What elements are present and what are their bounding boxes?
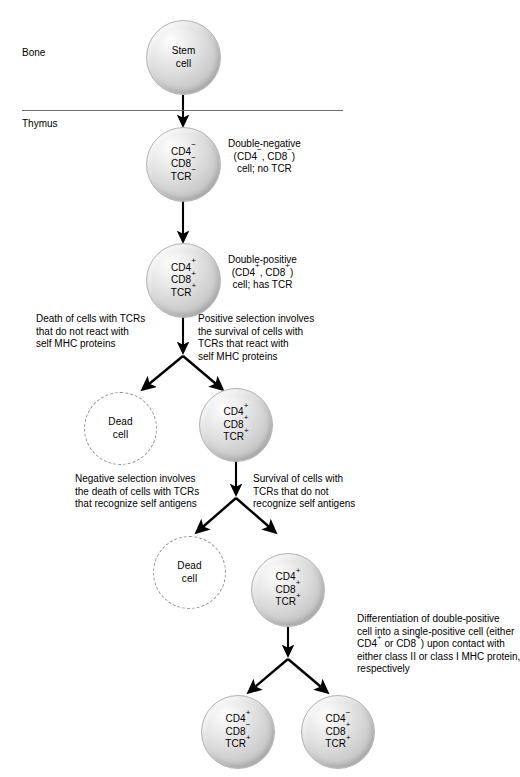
stem-cell-line-1: Stem (172, 45, 196, 58)
region-label-thymus: Thymus (22, 118, 58, 131)
cell-double-negative[interactable]: CD4− CD8− TCR− (146, 127, 221, 202)
dead-cell-2-line-2: cell (182, 573, 197, 586)
region-label-bone-marrow: Bonemarrow (22, 47, 45, 60)
positively-selected-line-3: TCR+ (223, 431, 249, 444)
annotation-positive-selection-death: Death of cells with TCRsthat do not reac… (36, 313, 145, 351)
annotation-double-negative: Double-negative(CD4−, CD8−)cell; no TCR (228, 138, 301, 176)
stem-cell-line-2: cell (176, 58, 191, 71)
single-positive-cd4-line-3: TCR+ (225, 738, 251, 751)
dead-cell-1-line-1: Dead (108, 416, 132, 429)
arrow-positive-selection-to-dead-cell (143, 356, 183, 389)
cell-single-positive-cd8[interactable]: CD4− CD8+ TCR+ (301, 695, 375, 769)
dead-cell-2-line-1: Dead (177, 560, 201, 573)
annotation-differentiation: Differentiation of double-positivecell i… (357, 613, 520, 676)
annotation-positive-selection-survival: Positive selection involvesthe survival … (198, 313, 314, 363)
negative-survivor-line-3: TCR+ (275, 596, 301, 609)
cell-positively-selected[interactable]: CD4+ CD8+ TCR+ (199, 388, 273, 462)
annotation-negative-selection-survival: Survival of cells withTCRs that do notre… (253, 473, 355, 511)
double-negative-line-3: TCR− (171, 171, 197, 184)
bone-marrow-label-line1: Bone (22, 47, 45, 58)
arrow-differentiation-to-cd4-single-positive (249, 659, 288, 692)
arrow-negative-selection-to-dead-cell (197, 498, 236, 532)
arrow-differentiation-to-cd8-single-positive (288, 659, 327, 692)
thymus-label: Thymus (22, 118, 58, 129)
cell-negatively-selected-survivor[interactable]: CD4+ CD8+ TCR+ (251, 553, 325, 627)
double-positive-line-3: TCR+ (171, 287, 197, 300)
dead-cell-1-line-2: cell (113, 429, 128, 442)
cell-stem-cell[interactable]: Stem cell (146, 20, 221, 95)
annotation-double-positive: Double-positive(CD4+, CD8+)cell; has TCR (228, 254, 297, 292)
cell-double-positive[interactable]: CD4+ CD8+ TCR+ (146, 243, 221, 318)
cell-dead-positive-selection[interactable]: Dead cell (84, 392, 157, 465)
single-positive-cd8-line-3: TCR+ (325, 738, 351, 751)
cell-single-positive-cd4[interactable]: CD4+ CD8− TCR+ (201, 695, 275, 769)
annotation-negative-selection-death: Negative selection involvesthe death of … (75, 473, 199, 511)
cell-dead-negative-selection[interactable]: Dead cell (153, 536, 226, 609)
